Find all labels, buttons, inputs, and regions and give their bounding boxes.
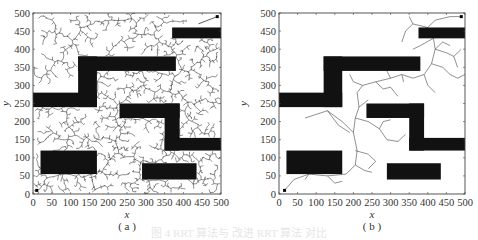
tree-branch xyxy=(355,118,405,142)
figure-caption: 图 4 RRT 算法与 改进 RRT 算法 对比 xyxy=(0,224,478,240)
y-tick-label: 50 xyxy=(266,170,277,181)
obstacle-block xyxy=(142,163,197,179)
tree-branch xyxy=(376,82,398,97)
x-tick-label: 400 xyxy=(176,197,192,208)
x-axis-label: x xyxy=(124,208,130,220)
obstacle-block xyxy=(419,27,466,38)
x-tick-label: 200 xyxy=(100,197,116,208)
tree-branch xyxy=(432,64,466,78)
y-tick-label: 100 xyxy=(260,152,276,163)
x-tick-label: 350 xyxy=(401,197,417,208)
x-tick-label: 500 xyxy=(213,197,229,208)
y-tick-label: 300 xyxy=(260,80,276,91)
y-tick-label: 500 xyxy=(260,8,276,19)
y-tick-label: 0 xyxy=(25,189,30,200)
x-tick-label: 300 xyxy=(383,197,399,208)
y-tick-label: 150 xyxy=(260,134,276,145)
y-tick-label: 500 xyxy=(14,8,30,19)
y-tick-label: 400 xyxy=(14,44,30,55)
y-tick-label: 200 xyxy=(260,116,276,127)
x-tick-label: 0 xyxy=(276,197,281,208)
x-tick-label: 150 xyxy=(82,197,98,208)
plot-area xyxy=(33,13,221,194)
obstacle-block xyxy=(387,163,441,179)
obstacle-block xyxy=(165,138,221,151)
goal-marker xyxy=(216,15,219,18)
obstacle-block xyxy=(279,93,342,107)
obstacle-block xyxy=(41,151,97,175)
y-tick-label: 250 xyxy=(14,98,30,109)
x-tick-label: 0 xyxy=(30,197,35,208)
tree-branch xyxy=(355,151,375,169)
tree-branch xyxy=(424,75,435,93)
tree-branch xyxy=(402,75,404,82)
tree-branch xyxy=(305,111,353,133)
x-tick-label: 250 xyxy=(119,197,135,208)
y-tick-label: 0 xyxy=(271,189,276,200)
y-axis-label: y xyxy=(0,101,11,107)
y-tick-label: 100 xyxy=(14,152,30,163)
x-tick-label: 100 xyxy=(63,197,79,208)
tree-branch xyxy=(413,38,434,49)
tree-branch xyxy=(454,56,458,67)
obstacle-block xyxy=(172,27,221,38)
start-marker xyxy=(283,189,286,192)
obstacle-block xyxy=(409,138,465,151)
x-tick-label: 400 xyxy=(420,197,436,208)
y-axis-label: y xyxy=(240,101,249,107)
obstacles xyxy=(279,27,465,179)
goal-marker xyxy=(460,15,463,18)
rrt-plot-b: 0501001502002503003504004505000501001502… xyxy=(240,0,478,240)
y-tick-label: 450 xyxy=(260,26,276,37)
x-tick-label: 500 xyxy=(457,197,473,208)
axes: 0501001502002503003504004505000501001502… xyxy=(0,8,229,234)
x-axis-label: x xyxy=(369,208,375,220)
x-tick-label: 450 xyxy=(194,197,210,208)
y-tick-label: 150 xyxy=(14,134,30,145)
tree-branch xyxy=(355,165,372,172)
x-tick-label: 100 xyxy=(308,197,324,208)
plot-area xyxy=(279,13,465,194)
panel-b: 0501001502002503003504004505000501001502… xyxy=(240,0,478,240)
x-tick-label: 350 xyxy=(157,197,173,208)
x-tick-label: 200 xyxy=(346,197,362,208)
y-tick-label: 350 xyxy=(260,62,276,73)
x-tick-label: 450 xyxy=(439,197,455,208)
tree-branch xyxy=(387,71,391,78)
y-tick-label: 200 xyxy=(14,116,30,127)
tree-branch xyxy=(435,42,450,49)
axes: 0501001502002503003504004505000501001502… xyxy=(240,8,473,234)
y-tick-label: 250 xyxy=(260,98,276,109)
tree-branch xyxy=(379,120,390,129)
tree-branch xyxy=(435,49,461,56)
y-tick-label: 450 xyxy=(14,26,30,37)
x-tick-label: 50 xyxy=(292,197,303,208)
panel-a: 0501001502002503003504004505000501001502… xyxy=(0,0,240,240)
x-tick-label: 50 xyxy=(47,197,58,208)
x-tick-label: 300 xyxy=(138,197,154,208)
tree-branch xyxy=(327,176,342,183)
obstacle-block xyxy=(33,93,97,107)
tree-branch xyxy=(409,17,413,24)
start-marker xyxy=(35,189,38,192)
x-tick-label: 150 xyxy=(327,197,343,208)
y-tick-label: 400 xyxy=(260,44,276,55)
rrt-plot-a: 0501001502002503003504004505000501001502… xyxy=(0,0,240,240)
tree-branch xyxy=(350,75,363,86)
y-tick-label: 300 xyxy=(14,80,30,91)
obstacle-block xyxy=(286,151,342,175)
x-tick-label: 250 xyxy=(364,197,380,208)
y-tick-label: 350 xyxy=(14,62,30,73)
tree-branch xyxy=(327,111,349,133)
y-tick-label: 50 xyxy=(20,170,31,181)
